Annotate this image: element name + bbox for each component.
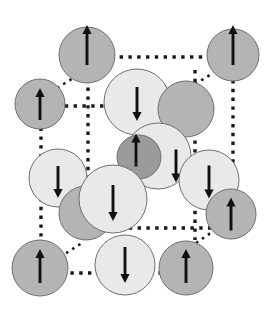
- atom-bottom-center-light: [95, 235, 155, 295]
- lattice-diagram-canvas: [0, 0, 279, 318]
- atom-bottom-front-left: [12, 240, 68, 296]
- lattice-figure: [0, 0, 279, 318]
- atom-top-back-right: [207, 25, 259, 81]
- atom-mid-right-medium: [206, 189, 256, 239]
- atom-top-back-left: [59, 25, 115, 83]
- atom-lower-center-light: [79, 165, 147, 233]
- atoms-group: [12, 25, 259, 296]
- atom-mid-front-left: [15, 79, 65, 129]
- atom-bottom-front-right: [159, 241, 213, 295]
